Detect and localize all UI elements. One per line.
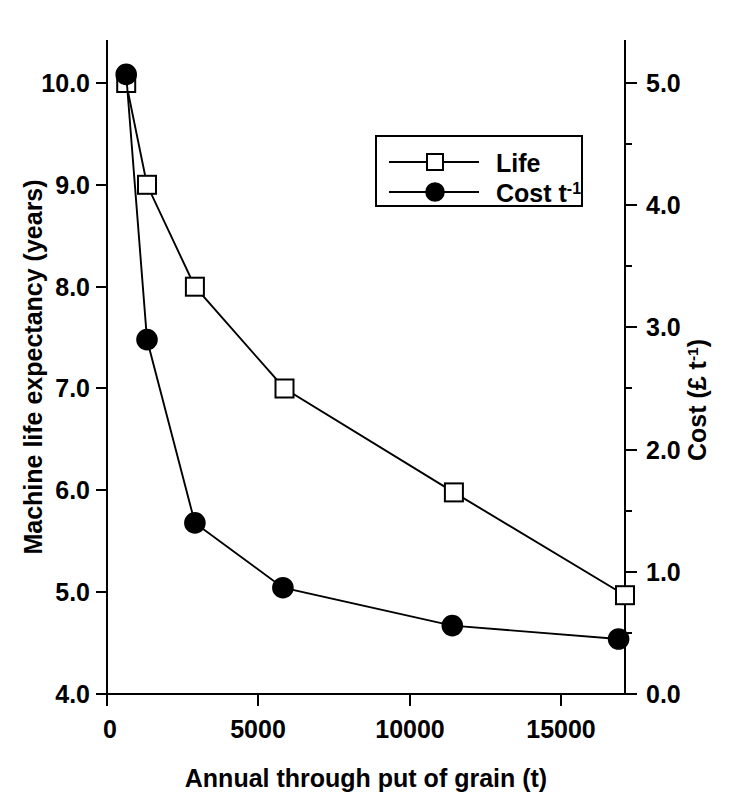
y2-tick-label-3: 3.0 xyxy=(646,313,681,341)
y-tick-label-6: 6.0 xyxy=(55,476,90,504)
y-right-title-base: Cost (£ t xyxy=(683,360,711,461)
x-tick-label-10000: 10000 xyxy=(375,715,445,743)
x-tick-label-0: 0 xyxy=(103,715,117,743)
y-left-tick-labels: 10.0 9.0 8.0 7.0 6.0 5.0 4.0 xyxy=(41,69,90,708)
data-point xyxy=(616,586,634,604)
legend-open-square-icon xyxy=(427,154,443,170)
legend-label-cost-superscript: -1 xyxy=(567,180,581,197)
y2-tick-label-0: 0.0 xyxy=(646,680,681,708)
data-point xyxy=(185,513,205,533)
y-tick-label-8: 8.0 xyxy=(55,273,90,301)
legend-label-cost-base: Cost t xyxy=(496,179,568,207)
y-right-tick-labels: 5.0 4.0 3.0 2.0 1.0 0.0 xyxy=(646,69,681,708)
y-right-title-superscript: -1 xyxy=(684,347,701,361)
y-tick-label-5: 5.0 xyxy=(55,578,90,606)
legend-label-life: Life xyxy=(496,149,541,177)
data-point xyxy=(445,483,463,501)
data-point xyxy=(609,629,629,649)
legend-filled-circle-icon xyxy=(426,183,444,201)
y-tick-label-4: 4.0 xyxy=(55,680,90,708)
chart-figure: 10.0 9.0 8.0 7.0 6.0 5.0 4.0 5.0 4.0 3.0 xyxy=(0,0,740,812)
x-tick-label-15000: 15000 xyxy=(526,715,596,743)
y2-tick-label-1: 1.0 xyxy=(646,558,681,586)
y-right-axis-title: Cost (£ t-1) xyxy=(683,339,711,461)
x-ticks xyxy=(107,694,561,706)
y-tick-label-10: 10.0 xyxy=(41,69,90,97)
data-point xyxy=(138,176,156,194)
y2-tick-label-5: 5.0 xyxy=(646,69,681,97)
x-tick-labels: 0 5000 10000 15000 xyxy=(103,715,596,743)
data-point xyxy=(442,616,462,636)
data-point xyxy=(186,278,204,296)
y-right-title-close: ) xyxy=(683,339,711,347)
svg-text:Cost (£ t-1): Cost (£ t-1) xyxy=(683,339,711,461)
y2-tick-label-2: 2.0 xyxy=(646,436,681,464)
y-tick-label-7: 7.0 xyxy=(55,374,90,402)
x-tick-label-5000: 5000 xyxy=(230,715,286,743)
data-point xyxy=(116,64,136,84)
y-tick-label-9: 9.0 xyxy=(55,171,90,199)
y-left-ticks xyxy=(96,83,107,694)
data-point xyxy=(137,330,157,350)
data-point xyxy=(276,380,294,398)
line-chart: 10.0 9.0 8.0 7.0 6.0 5.0 4.0 5.0 4.0 3.0 xyxy=(0,0,740,812)
data-point xyxy=(273,578,293,598)
y-left-axis-title: Machine life expectancy (years) xyxy=(19,179,47,554)
legend: Life Cost t-1 xyxy=(376,136,582,207)
y2-tick-label-4: 4.0 xyxy=(646,191,681,219)
x-axis-title: Annual through put of grain (t) xyxy=(185,764,547,792)
